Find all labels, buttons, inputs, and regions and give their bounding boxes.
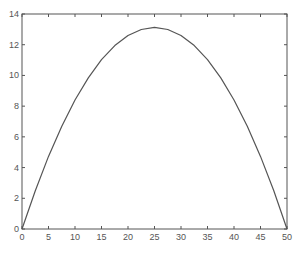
x-tick-label: 5 (46, 232, 51, 242)
line-chart: 05101520253035404550 02468101214 (0, 0, 301, 253)
x-tick-label: 40 (229, 232, 239, 242)
plot-area (22, 14, 287, 229)
y-tick-label: 6 (14, 132, 19, 142)
y-tick-label: 14 (9, 9, 19, 19)
y-tick-label: 10 (9, 70, 19, 80)
x-tick-label: 20 (123, 232, 133, 242)
axes-frame (22, 14, 287, 229)
x-tick-label: 0 (19, 232, 24, 242)
x-tick-label: 25 (149, 232, 159, 242)
y-tick-label: 12 (9, 40, 19, 50)
x-axis: 05101520253035404550 (19, 14, 292, 242)
x-tick-label: 30 (176, 232, 186, 242)
data-line (22, 27, 287, 229)
x-tick-label: 45 (255, 232, 265, 242)
x-tick-label: 35 (202, 232, 212, 242)
x-tick-label: 10 (70, 232, 80, 242)
y-tick-label: 8 (14, 101, 19, 111)
x-tick-label: 15 (96, 232, 106, 242)
x-tick-label: 50 (282, 232, 292, 242)
y-tick-label: 0 (14, 224, 19, 234)
y-tick-label: 4 (14, 163, 19, 173)
y-tick-label: 2 (14, 193, 19, 203)
